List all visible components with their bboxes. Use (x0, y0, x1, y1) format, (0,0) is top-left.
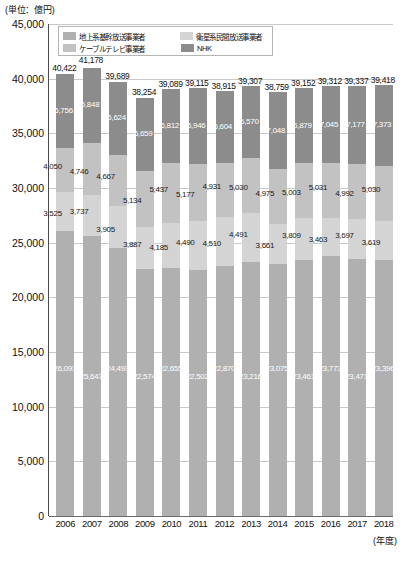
y-axis-tick-label: 0 (0, 510, 44, 522)
segment-value-label-nhk: 6,659 (134, 129, 153, 138)
segment-value-label-cable: 5,177 (176, 190, 195, 199)
legend-swatch-satellite-icon (180, 32, 193, 40)
y-axis-tick-label: 5,000 (0, 455, 44, 467)
segment-value-label-terrestrial: 22,574 (133, 372, 156, 381)
bar-total-label: 39,418 (371, 75, 395, 85)
x-axis-tick-label: 2009 (132, 518, 158, 529)
bar-column[interactable] (189, 88, 207, 516)
bar-total-label: 39,337 (344, 76, 368, 86)
bar-total-label: 39,089 (158, 79, 182, 89)
bar-segment-terrestrial (216, 266, 234, 516)
y-axis-unit-note: (単位：億円) (5, 3, 55, 16)
bar-column[interactable] (348, 86, 366, 516)
bar-column[interactable] (242, 86, 260, 516)
segment-value-label-terrestrial: 22,655 (159, 364, 182, 373)
bar-segment-terrestrial (375, 260, 393, 516)
segment-value-label-terrestrial: 23,216 (239, 372, 262, 381)
segment-value-label-cable: 4,667 (96, 172, 115, 181)
x-axis-tick-label: 2012 (212, 518, 238, 529)
segment-value-label-satellite: 3,525 (43, 209, 62, 218)
y-axis-tick-label: 40,000 (0, 73, 44, 85)
segment-value-label-satellite: 3,905 (96, 225, 115, 234)
segment-value-label-nhk: 6,879 (293, 121, 312, 130)
bar-total-label: 39,152 (291, 78, 315, 88)
segment-value-label-cable: 4,746 (70, 167, 89, 176)
x-axis-tick-label: 2015 (291, 518, 317, 529)
bar-column[interactable] (83, 68, 101, 516)
bar-segment-terrestrial (269, 264, 287, 516)
segment-value-label-nhk: 6,946 (187, 121, 206, 130)
x-axis-tick-label: 2016 (318, 518, 344, 529)
bar-total-label: 38,759 (265, 82, 289, 92)
bar-column[interactable] (56, 74, 74, 516)
segment-value-label-cable: 4,992 (335, 189, 354, 198)
x-axis-tick-labels: 2006200720082009201020112012201320142015… (48, 518, 393, 534)
legend-swatch-nhk-icon (181, 44, 194, 52)
bar-column[interactable] (269, 92, 287, 516)
bar-column[interactable] (295, 88, 313, 516)
legend-item-satellite: 衛星系民間放送事業者 (180, 31, 262, 42)
x-axis-tick-label: 2006 (52, 518, 78, 529)
legend-swatch-terrestrial-icon (63, 32, 76, 40)
x-axis-unit-note: (年度) (373, 534, 397, 547)
y-axis-tick-label: 35,000 (0, 127, 44, 139)
segment-value-label-nhk: 6,604 (214, 122, 233, 131)
segment-value-label-nhk: 6,624 (107, 113, 126, 122)
bar-total-label: 39,312 (318, 76, 342, 86)
chart-plot-area: 26,0913,5254,0506,75640,42225,6473,7374,… (48, 24, 393, 516)
x-axis-tick-label: 2007 (79, 518, 105, 529)
bar-total-label: 39,307 (238, 76, 262, 86)
bar-segment-terrestrial (242, 262, 260, 516)
segment-value-label-satellite: 3,619 (362, 238, 381, 247)
segment-value-label-satellite: 4,491 (229, 230, 248, 239)
segment-value-label-terrestrial: 25,647 (80, 372, 103, 381)
segment-value-label-cable: 5,134 (123, 196, 142, 205)
segment-value-label-satellite: 3,737 (70, 207, 89, 216)
gridline (49, 516, 393, 517)
bar-column[interactable] (216, 91, 234, 516)
bar-segment-terrestrial (189, 270, 207, 516)
bar-total-label: 39,689 (105, 71, 129, 81)
bar-segment-terrestrial (109, 248, 127, 516)
legend-item-cable: ケーブルテレビ事業者 (63, 43, 145, 54)
segment-value-label-cable: 5,003 (282, 188, 301, 197)
x-axis-tick-label: 2018 (371, 518, 397, 529)
chart-legend: 地上系基幹放送事業者 衛星系民間放送事業者 ケーブルテレビ事業者 NHK (58, 26, 273, 56)
bar-segment-terrestrial (136, 269, 154, 516)
bar-column[interactable] (136, 98, 154, 516)
bar-total-label: 41,178 (79, 55, 103, 65)
segment-value-label-nhk: 6,756 (54, 106, 73, 115)
segment-value-label-terrestrial: 26,091 (53, 364, 76, 373)
x-axis-tick-label: 2008 (105, 518, 131, 529)
legend-label-satellite: 衛星系民間放送事業者 (196, 31, 262, 42)
bar-total-label: 38,254 (132, 87, 156, 97)
legend-row-2: ケーブルテレビ事業者 NHK (63, 42, 268, 54)
bar-column[interactable] (375, 85, 393, 516)
bar-segment-terrestrial (322, 256, 340, 516)
x-axis-tick-label: 2014 (265, 518, 291, 529)
segment-value-label-terrestrial: 22,502 (186, 372, 209, 381)
segment-value-label-cable: 4,931 (203, 182, 222, 191)
segment-value-label-satellite: 3,887 (123, 240, 142, 249)
segment-value-label-satellite: 4,185 (149, 243, 168, 252)
bar-column[interactable] (109, 82, 127, 516)
y-axis-tick-labels: 45,00040,00035,00030,00025,00020,00015,0… (0, 24, 44, 516)
x-axis-tick-label: 2013 (238, 518, 264, 529)
bar-total-label: 40,422 (52, 63, 76, 73)
bar-column[interactable] (322, 86, 340, 516)
segment-value-label-nhk: 7,177 (346, 120, 365, 129)
segment-value-label-satellite: 3,697 (335, 231, 354, 240)
segment-value-label-nhk: 6,570 (240, 117, 259, 126)
segment-value-label-nhk: 6,848 (81, 100, 100, 109)
segment-value-label-cable: 4,050 (43, 162, 62, 171)
segment-value-label-terrestrial: 22,870 (213, 364, 236, 373)
segment-value-label-satellite: 3,463 (309, 235, 328, 244)
x-axis-tick-label: 2011 (185, 518, 211, 529)
legend-row-1: 地上系基幹放送事業者 衛星系民間放送事業者 (63, 30, 268, 42)
legend-swatch-cable-icon (63, 44, 76, 52)
bar-column[interactable] (162, 89, 180, 516)
segment-value-label-satellite: 3,661 (256, 241, 275, 250)
bar-segment-terrestrial (162, 268, 180, 516)
segment-value-label-nhk: 7,048 (267, 126, 286, 135)
y-axis-tick-label: 30,000 (0, 182, 44, 194)
